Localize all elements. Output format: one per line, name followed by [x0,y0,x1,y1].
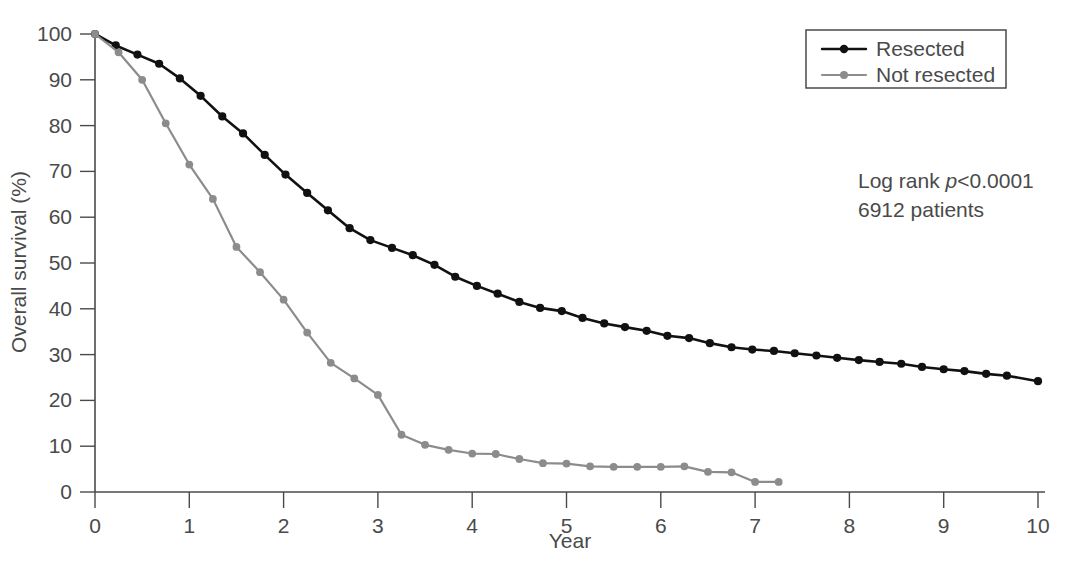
data-point [473,282,481,290]
data-point [586,462,594,470]
log-rank-annotation: Log rank p<0.0001 [858,169,1034,192]
survival-chart-figure: 0102030405060708090100 012345678910 Year… [0,0,1067,569]
data-point [728,468,736,476]
x-tick-label: 2 [278,514,290,537]
data-point [218,112,226,120]
data-point [940,365,948,373]
data-point [209,195,217,203]
x-tick-label: 10 [1026,514,1049,537]
y-axis-ticks: 0102030405060708090100 [37,22,95,503]
data-point [346,224,354,232]
y-tick-label: 70 [49,159,72,182]
data-point [515,298,523,306]
data-point [727,343,735,351]
data-point [706,339,714,347]
data-point [770,347,778,355]
data-point [918,363,926,371]
data-point [133,51,141,59]
data-point [324,206,332,214]
patient-count-annotation: 6912 patients [858,198,984,221]
data-point [960,367,968,375]
data-point [494,290,502,298]
data-point [492,450,500,458]
data-point [704,468,712,476]
data-point [657,463,665,471]
x-tick-label: 1 [183,514,195,537]
data-point [621,323,629,331]
series-layer [91,30,1042,486]
data-point [409,251,417,259]
y-tick-label: 60 [49,205,72,228]
y-tick-label: 10 [49,434,72,457]
data-point [350,375,358,383]
data-point [366,236,374,244]
series-not-resected [91,30,782,486]
x-tick-label: 4 [466,514,478,537]
legend-label-not-resected: Not resected [876,63,995,86]
data-point [539,459,547,467]
data-point [374,391,382,399]
data-point [398,431,406,439]
data-point [791,349,799,357]
data-point [445,446,453,454]
data-point [388,244,396,252]
y-tick-label: 20 [49,388,72,411]
data-point [303,189,311,197]
data-point [281,171,289,179]
x-tick-label: 9 [938,514,950,537]
data-point [643,327,651,335]
data-point [162,119,170,127]
legend-marker-not-resected [840,71,848,79]
data-point [176,74,184,82]
y-tick-label: 0 [60,480,72,503]
statistics-annotation: Log rank p<0.0001 6912 patients [858,169,1034,221]
log-rank-prefix: Log rank [858,169,946,192]
data-point [451,273,459,281]
data-point [558,307,566,315]
data-point [663,332,671,340]
data-point [115,48,123,56]
y-tick-label: 80 [49,114,72,137]
data-point [233,243,241,251]
x-tick-label: 0 [89,514,101,537]
data-point [536,304,544,312]
x-tick-label: 8 [844,514,856,537]
data-point [197,92,205,100]
data-point [91,30,99,38]
y-tick-label: 30 [49,343,72,366]
data-point [875,358,883,366]
data-point [430,261,438,269]
x-tick-label: 7 [749,514,761,537]
data-point [578,314,586,322]
log-rank-value: <0.0001 [957,169,1034,192]
data-point [748,345,756,353]
data-point [833,354,841,362]
data-point [1003,372,1011,380]
y-tick-label: 100 [37,22,72,45]
data-point [468,450,476,458]
data-point [239,129,247,137]
data-point [775,478,783,486]
chart-plot-area: 0102030405060708090100 012345678910 Year… [0,0,1067,569]
y-tick-label: 90 [49,68,72,91]
data-point [280,296,288,304]
legend-label-resected: Resected [876,37,965,60]
data-point [185,161,193,169]
data-point [421,441,429,449]
x-tick-label: 3 [372,514,384,537]
data-point [261,151,269,159]
data-point [812,351,820,359]
data-point [633,463,641,471]
data-point [155,60,163,68]
data-point [138,76,146,84]
x-tick-label: 6 [655,514,667,537]
data-point [685,334,693,342]
series-line [95,34,779,482]
data-point [327,359,335,367]
data-point [982,370,990,378]
data-point [1034,377,1042,385]
y-axis-title: Overall survival (%) [7,171,30,353]
data-point [610,463,618,471]
data-point [897,360,905,368]
data-point [751,478,759,486]
